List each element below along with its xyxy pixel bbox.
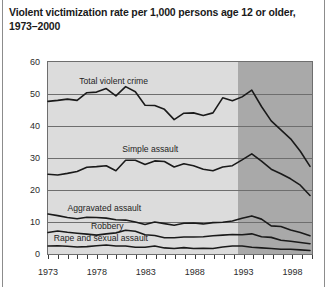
x-axis-tick-1982 [136, 255, 137, 259]
x-axis-label-1973: 1973 [38, 267, 58, 277]
annotation-total-violent-crime: Total violent crime [79, 77, 148, 86]
x-axis-label-1978: 1978 [87, 267, 107, 277]
x-axis-tick-1973 [48, 255, 49, 259]
line-rape-and-sexual-assault [48, 245, 310, 250]
x-axis-label-1988: 1988 [185, 267, 205, 277]
y-axis-label-20: 20 [6, 186, 40, 195]
plot-inner: Total violent crimeSimple assaultAggrava… [48, 62, 312, 254]
x-axis-tick-1999 [302, 255, 303, 259]
y-axis-label-0: 0 [6, 250, 40, 259]
x-axis-tick-1979 [107, 255, 108, 259]
figure-left-border [2, 0, 3, 287]
annotation-aggravated-assault: Aggravated assault [68, 204, 142, 213]
x-axis-label-1983: 1983 [136, 267, 156, 277]
annotation-rape-and-sexual-assault: Rape and sexual assault [54, 234, 148, 243]
y-axis-label-10: 10 [6, 218, 40, 227]
x-axis-tick-1975 [68, 255, 69, 259]
x-axis-tick-1974 [58, 255, 59, 259]
y-axis-label-60: 60 [6, 58, 40, 67]
plot-area: Total violent crimeSimple assaultAggrava… [47, 61, 313, 255]
x-axis-tick-1980 [116, 255, 117, 259]
x-axis-tick-1987 [185, 255, 186, 259]
x-axis: 197319781983198819931998 [47, 255, 313, 285]
figure-right-border [324, 0, 325, 287]
x-axis-tick-1976 [77, 255, 78, 259]
chart-title: Violent victimization rate per 1,000 per… [9, 6, 309, 33]
line-simple-assault [48, 154, 310, 196]
y-axis-label-30: 30 [6, 154, 40, 163]
x-axis-tick-1978 [97, 255, 98, 259]
x-axis-tick-1997 [283, 255, 284, 259]
x-axis-tick-1992 [234, 255, 235, 259]
x-axis-tick-1994 [253, 255, 254, 259]
x-axis-label-1998: 1998 [282, 267, 302, 277]
series-lines [48, 62, 312, 254]
x-axis-tick-1986 [175, 255, 176, 259]
x-axis-tick-1977 [87, 255, 88, 259]
x-axis-tick-1984 [156, 255, 157, 259]
x-axis-tick-1983 [146, 255, 147, 259]
y-axis-label-40: 40 [6, 122, 40, 131]
x-axis-tick-1988 [195, 255, 196, 259]
annotation-robbery: Robbery [91, 222, 123, 231]
x-axis-tick-1995 [263, 255, 264, 259]
x-axis-tick-1991 [224, 255, 225, 259]
x-axis-tick-1998 [292, 255, 293, 259]
x-axis-tick-1981 [126, 255, 127, 259]
line-total-violent-crime [48, 87, 310, 167]
y-axis-label-50: 50 [6, 90, 40, 99]
figure-container: Violent victimization rate per 1,000 per… [0, 0, 327, 287]
x-axis-tick-1993 [244, 255, 245, 259]
x-axis-tick-1985 [165, 255, 166, 259]
annotation-simple-assault: Simple assault [122, 145, 178, 154]
x-axis-tick-1990 [214, 255, 215, 259]
x-axis-tick-1989 [204, 255, 205, 259]
x-axis-tick-1996 [273, 255, 274, 259]
x-axis-label-1993: 1993 [234, 267, 254, 277]
x-axis-tick-2000 [312, 255, 313, 259]
